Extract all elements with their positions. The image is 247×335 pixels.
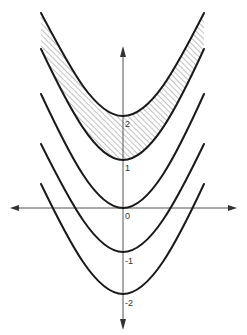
arrow-down-icon [120,319,126,330]
tick-label-2: 2 [125,119,130,129]
tick-label-minus-1: -1 [125,256,133,266]
arrow-left-icon [10,205,19,211]
y-axis [120,46,126,330]
tick-label-minus-2: -2 [125,298,133,308]
arrow-up-icon [120,46,126,57]
origin-label: 0 [125,211,130,221]
curve-family-diagram: 2 1 0 -1 -2 [0,0,247,335]
tick-label-1: 1 [125,163,130,173]
arrow-right-icon [228,205,237,211]
